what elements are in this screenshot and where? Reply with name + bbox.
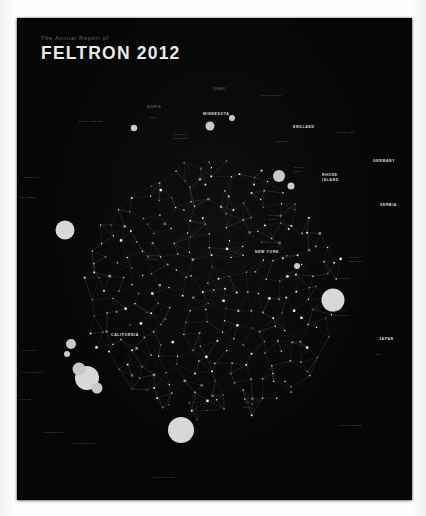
graph-edge <box>130 198 132 212</box>
graph-edge <box>113 298 117 312</box>
graph-node <box>243 255 244 256</box>
graph-node <box>251 404 252 405</box>
graph-node <box>110 224 111 225</box>
graph-edge <box>263 298 269 312</box>
graph-node <box>188 402 189 403</box>
graph-node <box>118 290 119 291</box>
graph-node <box>189 187 191 189</box>
graph-edge <box>294 299 308 310</box>
graph-edge <box>111 225 125 226</box>
graph-edge <box>212 249 227 255</box>
graph-node <box>268 297 270 299</box>
graph-edge <box>262 225 265 242</box>
graph-edge <box>190 206 194 221</box>
graph-node <box>143 218 144 219</box>
graph-node <box>226 350 227 351</box>
graph-edge <box>183 296 190 311</box>
graph-node <box>220 205 223 208</box>
graph-node <box>136 347 138 349</box>
graph-label: Los Angeles <box>21 349 36 351</box>
graph-node <box>106 312 108 314</box>
graph-edge <box>324 247 328 261</box>
graph-edge <box>194 206 202 218</box>
graph-edge <box>159 200 160 215</box>
graph-node <box>211 395 213 397</box>
graph-node <box>112 344 113 345</box>
graph-edge <box>199 322 207 333</box>
graph-edge <box>207 400 216 401</box>
graph-edge <box>183 277 187 296</box>
graph-edge <box>247 260 264 272</box>
graph-node <box>282 192 284 194</box>
poster-canvas: The Annual Report of FELTRON 2012 QUEBEC… <box>17 18 412 500</box>
graph-edge <box>225 289 237 293</box>
graph-edge <box>207 304 208 322</box>
graph-edge <box>244 193 252 203</box>
graph-edge <box>252 193 264 207</box>
graph-major-node <box>131 125 137 131</box>
graph-edge <box>127 242 136 258</box>
graph-node <box>243 202 244 203</box>
graph-edge <box>157 393 172 398</box>
graph-edge <box>142 243 152 251</box>
graph-node <box>131 197 133 199</box>
graph-node <box>118 369 119 370</box>
graph-edge <box>254 182 268 185</box>
graph-edge <box>296 275 313 277</box>
graph-node <box>226 248 228 250</box>
graph-label: ALBERTA <box>147 105 161 109</box>
graph-edge <box>227 241 230 249</box>
graph-node <box>258 293 259 294</box>
graph-node <box>226 160 227 161</box>
graph-edge <box>104 291 113 299</box>
graph-node <box>228 196 230 198</box>
graph-label: SAN FRANCISCO <box>21 371 43 373</box>
graph-node <box>158 356 159 357</box>
graph-edge <box>132 186 151 198</box>
graph-major-node <box>294 263 300 269</box>
graph-edge <box>222 332 233 338</box>
graph-edge <box>265 341 278 353</box>
graph-edge <box>178 350 194 356</box>
graph-edge <box>190 298 193 311</box>
graph-edge <box>212 255 232 257</box>
graph-node <box>192 349 194 351</box>
graph-edge <box>224 289 226 301</box>
graph-edge <box>85 264 94 278</box>
graph-node <box>182 295 184 297</box>
graph-edge <box>251 379 252 398</box>
graph-edge <box>208 301 223 304</box>
graph-edge <box>161 257 168 264</box>
graph-major-node <box>92 383 103 394</box>
graph-edge <box>291 376 310 392</box>
graph-edge <box>154 332 161 345</box>
graph-label: NEW YORK <box>255 250 279 254</box>
graph-node <box>317 357 318 358</box>
graph-edge <box>231 373 235 382</box>
graph-node <box>129 324 130 325</box>
graph-edge <box>151 313 161 324</box>
graph-node <box>307 371 309 373</box>
graph-node <box>308 217 310 219</box>
graph-edge <box>278 331 285 341</box>
graph-node <box>208 303 209 304</box>
graph-edge <box>132 337 144 350</box>
graph-node <box>327 247 328 248</box>
graph-node <box>205 309 206 310</box>
graph-edge <box>177 364 185 381</box>
graph-edge <box>225 309 227 321</box>
graph-edge <box>104 276 110 291</box>
graph-edge <box>99 278 104 291</box>
graph-node <box>306 232 308 234</box>
graph-edge <box>277 392 292 398</box>
graph-edge <box>118 198 131 210</box>
graph-node <box>131 349 133 351</box>
graph-edge <box>186 322 207 323</box>
graph-edge <box>207 401 208 411</box>
graph-edge <box>197 401 207 420</box>
graph-edge <box>298 255 302 264</box>
graph-edge <box>206 341 217 357</box>
graph-node <box>237 310 239 312</box>
graph-edge <box>92 300 94 316</box>
graph-node <box>262 378 263 379</box>
